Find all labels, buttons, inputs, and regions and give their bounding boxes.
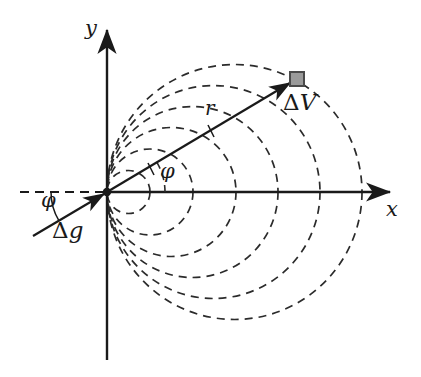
phi-outer-label: φ <box>41 190 56 211</box>
r-vector-label: r <box>205 98 215 118</box>
y-axis-label: y <box>85 18 97 39</box>
delta-symbol-V: Δ <box>283 89 300 115</box>
diagram-canvas <box>0 0 421 377</box>
physics-diagram: y x r φ φ ΔV Δg <box>0 0 421 377</box>
x-axis-label: x <box>386 199 398 220</box>
origin-dot <box>103 188 111 196</box>
r-vector-line <box>107 83 290 192</box>
delta-V-marker <box>290 72 304 86</box>
delta-V-label: ΔV <box>283 91 316 114</box>
variable-V: V <box>300 89 317 115</box>
variable-g: g <box>69 217 84 243</box>
delta-g-label: Δg <box>52 219 83 242</box>
phi-inner-label: φ <box>160 161 175 182</box>
delta-symbol-g: Δ <box>52 217 69 243</box>
